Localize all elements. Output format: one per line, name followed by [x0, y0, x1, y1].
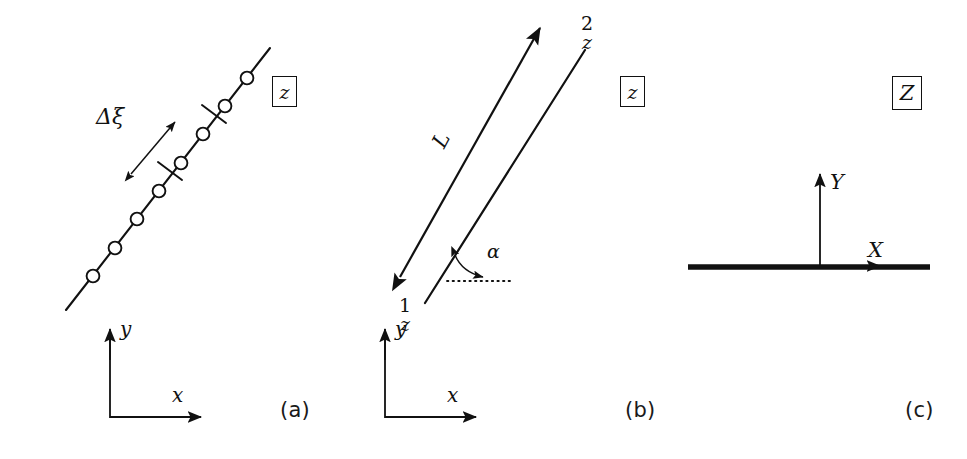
panel-b-caption: (b) [625, 398, 655, 422]
panel-b-x-axis-label: x [447, 383, 458, 407]
node-circle [131, 213, 144, 226]
panel-c-frame-box: Z [892, 76, 922, 110]
panel-b-endpoint-end-label: 2 z [578, 14, 596, 53]
node-circle [87, 270, 100, 283]
node-circle [219, 100, 232, 113]
panel-b-frame-box: z [620, 76, 645, 107]
panel-a-spacing-label: Δξ [96, 104, 124, 129]
panel-b-graphics [385, 28, 585, 417]
panel-a-ticks [158, 105, 226, 180]
node-circle [241, 72, 254, 85]
figure-vector-layer [0, 0, 967, 459]
node-circle [109, 242, 122, 255]
panel-c-x-axis-label: X [868, 238, 883, 262]
panel-b-y-axis-label: y [395, 317, 406, 341]
panel-c-graphics [688, 174, 930, 267]
node-circle [175, 157, 188, 170]
panel-c-y-axis-label: Y [830, 170, 844, 194]
node-circle [197, 128, 210, 141]
panel-a-spacing-arrow [131, 122, 175, 174]
endpoint-end-symbol: z [578, 33, 596, 52]
panel-b-segment [425, 50, 585, 303]
panel-a-axes [110, 333, 197, 417]
node-circle [153, 185, 166, 198]
panel-b-angle-label: α [487, 240, 500, 262]
panel-a-y-axis-label: y [120, 317, 131, 341]
figure-canvas: Δξ z y x (a) L α 1 z 2 z z y x (b) Z Y X… [0, 0, 967, 459]
panel-a-frame-box: z [272, 76, 297, 107]
panel-b-angle-arc-arrow [455, 255, 483, 277]
panel-c-caption: (c) [905, 398, 934, 422]
panel-b-axes [385, 333, 472, 417]
panel-a-x-axis-label: x [172, 383, 183, 407]
panel-a-caption: (a) [280, 398, 310, 422]
